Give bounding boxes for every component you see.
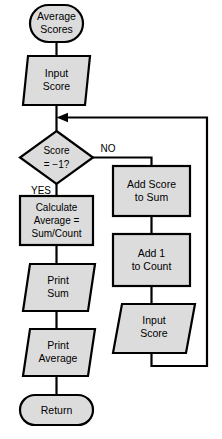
print-sum-label-line1: Print xyxy=(47,274,69,286)
calculate-average-label-line1: Calculate xyxy=(36,202,78,213)
node-return: Return xyxy=(20,395,93,425)
node-add-score-to-sum: Add Score to Sum xyxy=(113,166,190,216)
decision-diamond-shape xyxy=(20,131,93,184)
input-score-2-label-line1: Input xyxy=(142,314,165,326)
add-1-to-count-label-line1: Add 1 xyxy=(138,247,166,259)
input-score-1-label-line2: Score xyxy=(43,80,71,92)
node-input-score-1: Input Score xyxy=(23,56,90,105)
calculate-average-label-line3: Sum/Count xyxy=(31,228,81,239)
node-calculate-average: Calculate Average = Sum/Count xyxy=(20,196,93,245)
node-add-1-to-count: Add 1 to Count xyxy=(113,234,190,286)
decision-label-line2: = −1? xyxy=(44,159,70,170)
print-average-label-line2: Average xyxy=(39,352,78,364)
branch-label-no: NO xyxy=(101,143,116,154)
start-label-line2: Scores xyxy=(40,23,73,35)
loop-arrow-icon xyxy=(57,113,69,122)
print-average-label-line1: Print xyxy=(47,339,69,351)
connector-no-to-addscore xyxy=(93,158,152,167)
node-decision: Score = −1? xyxy=(20,131,93,184)
print-sum-label-line2: Sum xyxy=(47,287,69,299)
input-score-1-label-line1: Input xyxy=(45,67,68,79)
branch-label-yes: YES xyxy=(31,185,51,196)
node-print-average: Print Average xyxy=(23,329,95,376)
decision-label-line1: Score xyxy=(43,145,70,156)
add-score-to-sum-label-line1: Add Score xyxy=(127,178,176,190)
return-label: Return xyxy=(41,404,73,416)
flowchart-canvas: Average Scores Input Score Score = −1? Y… xyxy=(0,0,222,439)
add-score-to-sum-label-line2: to Sum xyxy=(135,191,169,203)
node-input-score-2: Input Score xyxy=(113,304,195,353)
start-label-line1: Average xyxy=(37,10,76,22)
calculate-average-label-line2: Average = xyxy=(34,215,80,226)
node-start: Average Scores xyxy=(30,5,83,42)
add-1-to-count-label-line2: to Count xyxy=(132,260,172,272)
node-print-sum: Print Sum xyxy=(23,264,95,311)
input-score-2-label-line2: Score xyxy=(140,327,168,339)
flowchart-diagram: Average Scores Input Score Score = −1? Y… xyxy=(0,0,222,439)
